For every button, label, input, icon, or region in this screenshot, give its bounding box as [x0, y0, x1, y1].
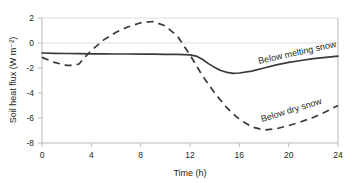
y-tick-label-neg8: -8: [26, 138, 34, 148]
y-tickmarks: [38, 18, 42, 143]
y-axis-title: Soil heat flux (W m⁻²): [8, 37, 18, 124]
x-tick-label-16: 16: [235, 150, 245, 160]
chart-canvas: 2 0 -2 -4 -6 -8 0 4 8 12 16 20 24 Time (…: [0, 0, 361, 183]
y-tick-labels: 2 0 -2 -4 -6 -8: [26, 13, 34, 148]
x-tickmarks: [42, 143, 338, 147]
x-tick-label-24: 24: [333, 150, 343, 160]
x-axis-title: Time (h): [173, 168, 206, 178]
x-tick-label-20: 20: [284, 150, 294, 160]
y-tick-label-neg2: -2: [26, 63, 34, 73]
y-tick-label-neg6: -6: [26, 113, 34, 123]
x-tick-label-8: 8: [138, 150, 143, 160]
y-tick-label-0: 0: [29, 38, 34, 48]
gridlines: [42, 18, 338, 43]
curve-label-below-dry-snow: Below dry snow: [260, 96, 324, 124]
x-tick-label-4: 4: [89, 150, 94, 160]
x-tick-labels: 0 4 8 12 16 20 24: [40, 150, 343, 160]
x-tick-label-0: 0: [40, 150, 45, 160]
y-tick-label-neg4: -4: [26, 88, 34, 98]
y-tick-label-2: 2: [29, 13, 34, 23]
x-tick-label-12: 12: [185, 150, 195, 160]
soil-heat-flux-chart: 2 0 -2 -4 -6 -8 0 4 8 12 16 20 24 Time (…: [0, 0, 361, 183]
